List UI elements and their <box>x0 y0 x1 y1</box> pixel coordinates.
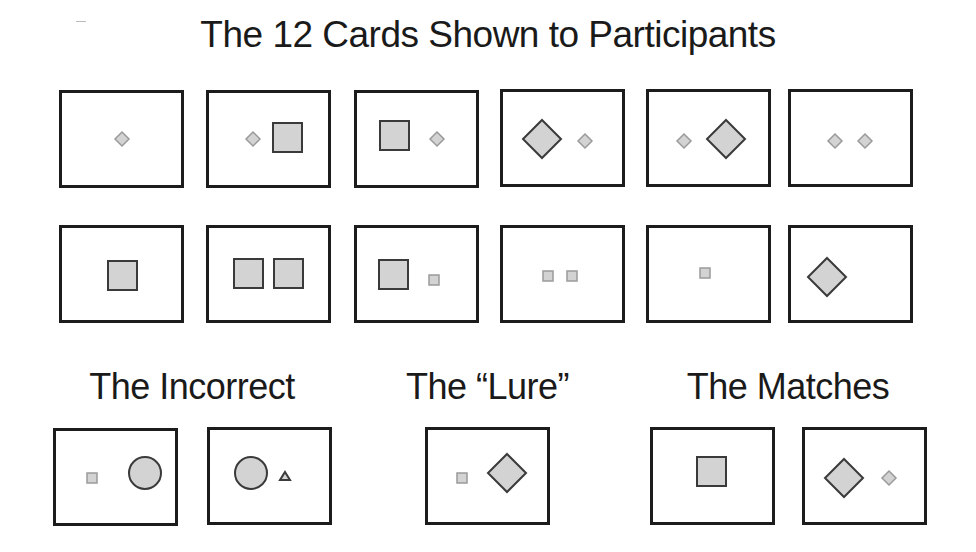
large-square-shape <box>380 121 409 150</box>
incorrect-card-1 <box>53 428 178 526</box>
large-square-shape <box>273 123 302 152</box>
match-card-1 <box>650 427 775 525</box>
small-diamond-shape <box>115 132 129 146</box>
large-diamond-shape <box>707 120 745 158</box>
shown-card-7 <box>59 225 184 323</box>
large-diamond-shape <box>825 459 863 497</box>
small-square-shape <box>567 271 577 281</box>
incorrect-label: The Incorrect <box>53 366 331 408</box>
small-triangle-shape <box>280 472 290 480</box>
shown-card-10 <box>500 225 625 323</box>
shown-card-5 <box>646 89 771 187</box>
large-square-shape <box>697 457 726 486</box>
small-diamond-shape <box>677 134 691 148</box>
shown-card-2 <box>206 90 331 188</box>
small-square-shape <box>700 268 710 278</box>
small-square-shape <box>543 271 553 281</box>
figure-title: The 12 Cards Shown to Participants <box>0 14 976 56</box>
shown-card-9 <box>354 225 479 323</box>
large-square-shape <box>234 259 263 288</box>
shown-card-4 <box>500 89 625 187</box>
large-diamond-shape <box>523 120 561 158</box>
large-square-shape <box>274 259 303 288</box>
large-circle-shape <box>235 457 267 489</box>
small-diamond-shape <box>882 471 896 485</box>
shown-card-11 <box>646 225 771 323</box>
shown-card-3 <box>354 90 479 188</box>
small-diamond-shape <box>858 134 872 148</box>
shown-card-1 <box>59 90 184 188</box>
small-diamond-shape <box>828 134 842 148</box>
match-card-2 <box>802 427 927 525</box>
small-diamond-shape <box>246 132 260 146</box>
shown-card-6 <box>788 89 913 187</box>
large-diamond-shape <box>808 258 846 296</box>
shown-card-12 <box>788 225 913 323</box>
large-square-shape <box>108 261 137 290</box>
incorrect-card-2 <box>207 427 332 525</box>
small-square-shape <box>457 473 467 483</box>
large-diamond-shape <box>488 454 526 492</box>
small-square-shape <box>429 275 439 285</box>
large-circle-shape <box>129 457 161 489</box>
small-square-shape <box>87 473 97 483</box>
small-diamond-shape <box>430 132 444 146</box>
matches-label: The Matches <box>650 366 926 408</box>
small-diamond-shape <box>578 134 592 148</box>
lure-label: The “Lure” <box>380 366 595 408</box>
shown-card-8 <box>206 225 331 323</box>
large-square-shape <box>379 260 408 289</box>
lure-card <box>425 427 550 525</box>
